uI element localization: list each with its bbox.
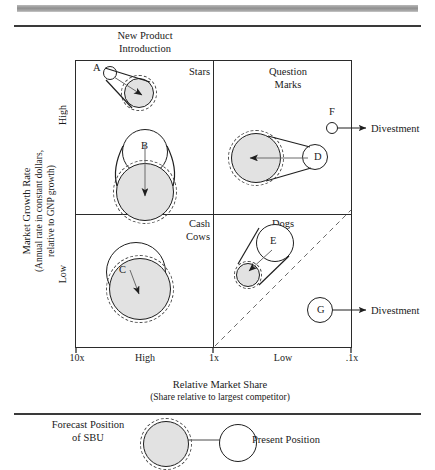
bubble-label-b: B	[141, 140, 148, 151]
x-axis-title-line2: (Share relative to largest competitor)	[85, 391, 355, 404]
x-tick-label-01x: .1x	[336, 352, 368, 363]
y-axis-title-line2: (Annual rate in constant dollars,	[33, 106, 45, 316]
question-marks-line1: Question	[228, 66, 348, 79]
cash-cows-line2: Cows	[155, 231, 210, 244]
divestment-label-f: Divestment	[371, 123, 419, 134]
legend-forecast-label: Forecast Position of SBU	[33, 418, 143, 444]
x-tick-label-high: High	[125, 352, 165, 363]
bubble-label-f: F	[329, 106, 335, 117]
y-axis-title: Market Growth Rate (Annual rate in const…	[21, 106, 57, 316]
bubble-f-present[interactable]	[326, 122, 338, 134]
x-tick-label-10x: 10x	[62, 352, 92, 363]
x-tick-label-1x: 1x	[199, 352, 229, 363]
bubble-a-present[interactable]	[103, 66, 117, 80]
vertical-divider	[213, 60, 214, 348]
y-tick-label-high: High	[57, 105, 68, 125]
quadrant-label-stars: Stars	[155, 66, 210, 79]
legend-forecast-circle	[143, 421, 189, 467]
divestment-label-g: Divestment	[371, 305, 419, 316]
new-product-line1: New Product	[75, 30, 215, 43]
bubble-label-c: C	[119, 264, 126, 275]
legend-present-label: Present Position	[252, 434, 320, 445]
top-gray-bar	[17, 5, 418, 12]
x-tick-label-low: Low	[263, 352, 303, 363]
quadrant-label-cash-cows: Cash Cows	[155, 218, 210, 243]
bubble-a-forecast[interactable]	[124, 78, 154, 108]
bubble-label-e: E	[270, 235, 276, 246]
new-product-line2: Introduction	[75, 43, 215, 56]
bubble-e-forecast[interactable]	[236, 263, 260, 287]
new-product-introduction-heading: New Product Introduction	[75, 30, 215, 55]
cash-cows-line1: Cash	[155, 218, 210, 231]
bubble-label-a: A	[93, 62, 101, 73]
bubble-label-g: G	[317, 304, 325, 315]
top-horizontal-rule	[14, 25, 421, 27]
legend-forecast-line1: Forecast Position	[33, 418, 143, 431]
bubble-b-forecast[interactable]	[116, 163, 174, 221]
quadrant-label-question-marks: Question Marks	[228, 66, 348, 91]
question-marks-line2: Marks	[228, 79, 348, 92]
y-axis-title-line3: relative to GNP growth)	[45, 106, 57, 316]
horizontal-divider	[75, 214, 352, 215]
bottom-horizontal-rule	[14, 413, 421, 415]
x-axis-title-line1: Relative Market Share	[85, 378, 355, 391]
bubble-label-d: D	[314, 151, 322, 162]
bubble-d-forecast[interactable]	[231, 133, 281, 183]
x-axis-title: Relative Market Share (Share relative to…	[85, 378, 355, 404]
y-tick-label-low: Low	[57, 265, 68, 283]
y-axis-title-line1: Market Growth Rate	[21, 106, 33, 316]
legend-forecast-line2: of SBU	[33, 431, 143, 444]
